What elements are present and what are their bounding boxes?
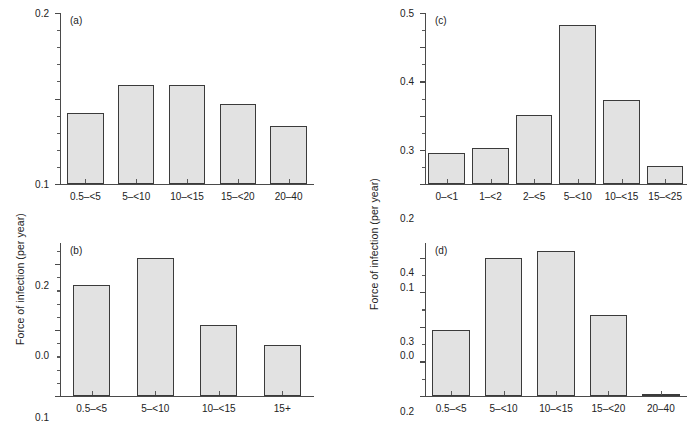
y-tick-minor	[422, 30, 425, 31]
x-tick	[556, 391, 557, 395]
bar	[432, 330, 470, 396]
x-tick	[219, 391, 220, 395]
bar	[137, 258, 174, 396]
x-axis-line	[60, 184, 314, 185]
panel-tag: (b)	[70, 245, 82, 256]
y-tick-label: 0.2	[400, 405, 414, 416]
y-tick-minor	[57, 290, 60, 291]
panel-d: (d)0.00.10.20.30.40.5–<55–<1010–<1515–<2…	[425, 243, 687, 426]
x-tick-label: 20–40	[647, 403, 675, 414]
bar	[516, 115, 553, 184]
y-tick-minor	[422, 275, 425, 276]
x-tick-label: 0–<1	[436, 191, 459, 202]
x-tick-label: 5–<10	[490, 403, 518, 414]
y-tick-major: 0.0	[55, 184, 60, 185]
x-tick-label: 10–<15	[202, 403, 236, 414]
x-tick	[136, 179, 137, 183]
x-tick	[92, 391, 93, 395]
plot-area: 0.00.10.20.30.40.50–<11–<22–<55–<1010–<1…	[425, 13, 687, 184]
x-tick-label: 15–<20	[221, 191, 255, 202]
x-axis-line	[425, 396, 687, 397]
y-tick-minor	[57, 343, 60, 344]
y-axis-label-left: Force of infection (per year)	[14, 213, 26, 345]
x-tick-label: 2–<5	[523, 191, 546, 202]
plot-area: 0.00.10.20.5–<55–<1010–<1515+	[60, 243, 314, 396]
y-tick-major: 0.3	[420, 81, 425, 82]
panel-tag: (d)	[435, 245, 447, 256]
y-tick-minor	[57, 317, 60, 318]
bar	[73, 285, 110, 396]
y-tick-minor	[422, 99, 425, 100]
panel-a: (a)0.00.10.20.5–<55–<1010–<1515–<2020–40	[60, 13, 314, 214]
y-tick-minor	[57, 133, 60, 134]
x-tick-label: 15+	[274, 403, 291, 414]
y-tick-minor	[57, 64, 60, 65]
x-tick	[451, 391, 452, 395]
bar	[590, 315, 628, 396]
x-tick	[578, 179, 579, 183]
x-tick	[85, 179, 86, 183]
plot-area: 0.00.10.20.30.40.5–<55–<1010–<1515–<2020…	[425, 243, 687, 396]
x-tick-label: 1–<2	[479, 191, 502, 202]
y-tick-label: 0.3	[400, 144, 414, 155]
y-tick-major: 0.1	[55, 99, 60, 100]
y-tick-major: 0.5	[420, 13, 425, 14]
x-axis-line	[60, 396, 314, 397]
y-tick-minor	[422, 379, 425, 380]
y-tick-minor	[57, 116, 60, 117]
y-tick-major: 0.4	[420, 258, 425, 259]
x-tick	[608, 391, 609, 395]
y-tick-minor	[422, 64, 425, 65]
y-tick-major: 0.2	[420, 116, 425, 117]
y-tick-minor	[422, 309, 425, 310]
y-tick-minor	[57, 383, 60, 384]
y-tick-label: 0.4	[400, 76, 414, 87]
y-tick-major: 0.2	[420, 327, 425, 328]
x-tick-label: 5–<10	[141, 403, 169, 414]
y-tick-label: 0.1	[35, 179, 49, 190]
y-tick-minor	[57, 150, 60, 151]
x-tick-label: 15–<20	[592, 403, 626, 414]
y-tick-minor	[422, 133, 425, 134]
y-tick-minor	[57, 304, 60, 305]
bar	[118, 85, 155, 184]
x-tick-label: 15–<25	[648, 191, 682, 202]
x-tick	[187, 179, 188, 183]
x-tick-label: 5–<10	[122, 191, 150, 202]
y-tick-label: 0.2	[35, 280, 49, 291]
x-axis-line	[425, 184, 687, 185]
y-axis-line	[60, 243, 61, 397]
bar	[264, 345, 301, 396]
bar	[67, 113, 104, 184]
y-tick-minor	[422, 344, 425, 345]
x-tick	[661, 391, 662, 395]
x-tick	[534, 179, 535, 183]
panel-tag: (c)	[435, 15, 447, 26]
y-tick-major: 0.3	[420, 292, 425, 293]
x-tick	[622, 179, 623, 183]
y-tick-major: 0.4	[420, 47, 425, 48]
y-tick-minor	[57, 356, 60, 357]
y-tick-label: 0.2	[35, 8, 49, 19]
x-tick	[665, 179, 666, 183]
y-tick-minor	[422, 167, 425, 168]
x-tick-label: 0.5–<5	[70, 191, 101, 202]
bar	[220, 104, 257, 184]
x-tick	[238, 179, 239, 183]
x-tick	[155, 391, 156, 395]
y-tick-label: 0.3	[400, 336, 414, 347]
x-tick-label: 20–40	[275, 191, 303, 202]
bar	[200, 325, 237, 396]
x-tick-label: 10–<15	[539, 403, 573, 414]
bar	[559, 25, 596, 184]
x-tick-label: 10–<15	[605, 191, 639, 202]
x-tick-label: 5–<10	[564, 191, 592, 202]
x-tick	[282, 391, 283, 395]
y-tick-minor	[57, 81, 60, 82]
y-axis-line	[425, 13, 426, 185]
y-tick-minor	[57, 251, 60, 252]
bar	[485, 258, 523, 396]
y-tick-major: 0.1	[420, 150, 425, 151]
y-tick-major: 0.2	[55, 13, 60, 14]
y-tick-major: 0.0	[420, 184, 425, 185]
